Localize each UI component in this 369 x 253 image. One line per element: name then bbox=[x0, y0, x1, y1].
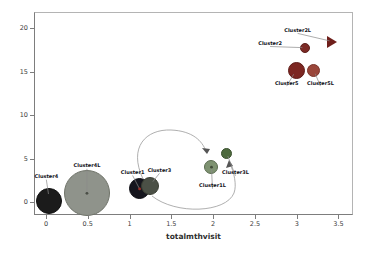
y-tick bbox=[30, 115, 34, 116]
y-tick-label: 20 bbox=[10, 24, 28, 32]
data-point-Cluster4L bbox=[64, 170, 110, 216]
point-label-Cluster3: Cluster3 bbox=[148, 167, 172, 173]
y-tick bbox=[30, 72, 34, 73]
x-tick bbox=[130, 215, 131, 219]
x-tick bbox=[46, 215, 47, 219]
y-tick-label: 5 bbox=[10, 155, 28, 163]
x-tick-label: 2 bbox=[202, 220, 224, 228]
data-point-Cluster5L bbox=[307, 64, 320, 77]
x-tick bbox=[255, 215, 256, 219]
x-tick bbox=[88, 215, 89, 219]
x-tick-label: 2.5 bbox=[244, 220, 266, 228]
x-tick bbox=[338, 215, 339, 219]
point-label-Cluster5: Cluster5 bbox=[275, 80, 299, 86]
point-label-Cluster5L: Cluster5L bbox=[307, 80, 334, 86]
x-tick-label: 0.5 bbox=[77, 220, 99, 228]
point-label-Cluster4: Cluster4 bbox=[35, 173, 59, 179]
x-tick-label: 3 bbox=[286, 220, 308, 228]
point-label-Cluster2: Cluster2 bbox=[258, 40, 282, 46]
x-tick bbox=[213, 215, 214, 219]
point-label-Cluster1: Cluster1 bbox=[121, 169, 145, 175]
y-tick-label: 10 bbox=[10, 111, 28, 119]
x-tick-label: 0 bbox=[35, 220, 57, 228]
x-tick-label: 3.5 bbox=[327, 220, 349, 228]
x-tick bbox=[171, 215, 172, 219]
y-tick bbox=[30, 28, 34, 29]
y-tick bbox=[30, 159, 34, 160]
point-label-Cluster3L: Cluster3L bbox=[222, 169, 249, 175]
data-point-Cluster2L bbox=[327, 36, 337, 48]
x-tick-label: 1.5 bbox=[160, 220, 182, 228]
x-tick bbox=[297, 215, 298, 219]
x-axis-label: totalmthvisit bbox=[34, 232, 353, 241]
y-tick-label: 0 bbox=[10, 198, 28, 206]
y-tick-label: 15 bbox=[10, 68, 28, 76]
bubble-chart: Cluster4Cluster4LCluster1Cluster3Cluster… bbox=[0, 0, 369, 253]
x-tick-label: 1 bbox=[119, 220, 141, 228]
point-label-Cluster1L: Cluster1L bbox=[199, 182, 226, 188]
point-label-Cluster2L: Cluster2L bbox=[284, 27, 311, 33]
point-label-Cluster4L: Cluster4L bbox=[74, 162, 101, 168]
data-point-Cluster3L bbox=[221, 148, 232, 159]
y-tick bbox=[30, 202, 34, 203]
data-point-Cluster2 bbox=[300, 43, 310, 53]
